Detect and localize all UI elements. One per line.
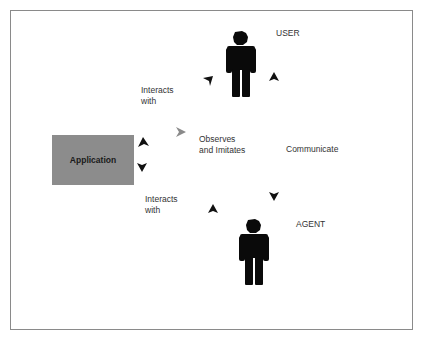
user-app-edge-label-line1: Interacts	[141, 85, 174, 96]
application-node: Application	[52, 135, 134, 185]
user-figure-icon	[224, 31, 258, 98]
user-app-edge-label-line2: with	[141, 96, 156, 107]
agent-figure-icon	[237, 219, 271, 286]
agent-app-edge-label-line1: Interacts	[145, 194, 178, 205]
user-label: USER	[276, 28, 300, 39]
arrowhead-icon	[138, 136, 150, 148]
observes-label-line1: Observes	[199, 134, 235, 145]
application-label: Application	[70, 155, 116, 165]
agent-app-edge-label-line2: with	[145, 205, 160, 216]
arrowhead-icon	[268, 71, 280, 83]
arrowhead-icon	[268, 190, 280, 202]
observe-arrowhead-icon	[175, 126, 187, 138]
arrowhead-icon	[136, 161, 148, 173]
observes-label-line2: and Imitates	[199, 145, 245, 156]
arrowhead-icon	[202, 75, 214, 87]
agent-label: AGENT	[296, 219, 325, 230]
arrowhead-icon	[207, 203, 219, 215]
communicate-label: Communicate	[286, 144, 338, 155]
